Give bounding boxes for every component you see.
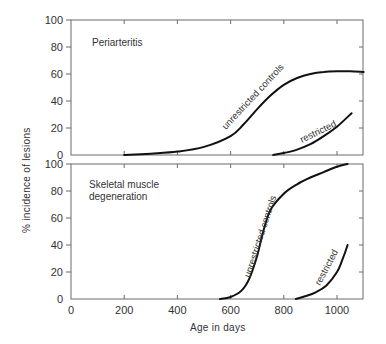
x-tick-label: 0	[68, 304, 74, 316]
y-tick-label: 80	[51, 41, 63, 53]
y-tick-label: 20	[51, 122, 63, 134]
x-tick-label: 600	[221, 304, 239, 316]
panel-skeletal-muscle-degeneration: 020406080100 Skeletal muscle degeneratio…	[45, 158, 363, 305]
panel-title-line1: Skeletal muscle	[89, 179, 159, 190]
restricted-label: restricted	[312, 247, 340, 287]
panel-periarteritis: 020406080100 Periarteritis unrestricted …	[45, 14, 364, 161]
unrestricted-controls-curve	[220, 164, 348, 299]
chart-figure: 020406080100 Periarteritis unrestricted …	[0, 0, 386, 344]
x-axis-label: Age in days	[190, 322, 246, 333]
chart-canvas: 020406080100 Periarteritis unrestricted …	[0, 0, 386, 344]
x-tick-label: 1000	[325, 304, 349, 316]
y-tick-label: 100	[45, 158, 63, 170]
y-tick-label: 60	[51, 212, 63, 224]
x-tick-label: 200	[115, 304, 133, 316]
unrestricted-controls-label: unrestricted controls	[241, 194, 278, 279]
unrestricted-controls-label: unrestricted controls	[219, 61, 286, 131]
y-tick-label: 80	[51, 185, 63, 197]
panel-title: Periarteritis	[92, 37, 143, 48]
y-tick-label: 0	[57, 293, 63, 305]
x-tick-labels: 02004006008001000	[68, 304, 349, 316]
x-tick-label: 800	[275, 304, 293, 316]
y-tick-label: 40	[51, 239, 63, 251]
y-tick-label: 60	[51, 68, 63, 80]
y-tick-label: 40	[51, 95, 63, 107]
y-axis-label: % incidence of lesions	[21, 127, 32, 233]
y-tick-label: 100	[45, 14, 63, 26]
x-tick-label: 400	[168, 304, 186, 316]
y-tick-label: 20	[51, 266, 63, 278]
panel-title-line2: degeneration	[89, 191, 147, 202]
